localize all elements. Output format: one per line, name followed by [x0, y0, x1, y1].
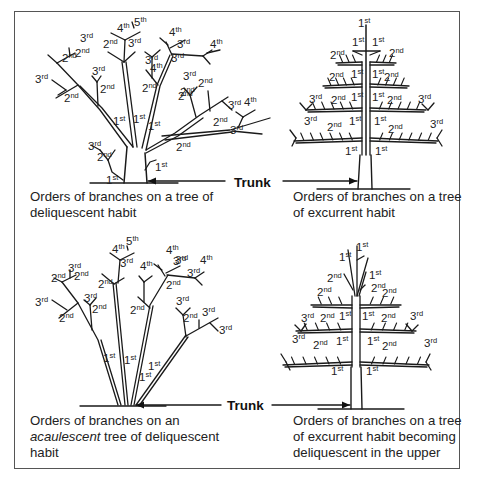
- order-label: 3rd: [292, 332, 305, 345]
- branch-line: [412, 325, 418, 331]
- twig-line: [377, 55, 380, 62]
- order-label: 1st: [133, 112, 146, 125]
- order-label: 3rd: [171, 51, 184, 64]
- branch-line: [108, 52, 124, 62]
- branch-line: [52, 80, 66, 90]
- caption-acaulescent: Orders of branches on an acaulescent tre…: [30, 413, 219, 461]
- twig-line: [428, 133, 431, 140]
- twig-line: [292, 357, 295, 364]
- caption-text: tree of deliquescent: [100, 429, 219, 444]
- caption-text: habit: [30, 445, 59, 460]
- order-label: 1st: [336, 334, 349, 347]
- branch-line: [166, 266, 180, 273]
- order-label: 2nd: [92, 302, 107, 315]
- caption-line: of excurrent habit: [293, 205, 462, 221]
- branch-line: [190, 95, 196, 117]
- twig-line: [406, 357, 409, 364]
- caption-line: Orders of branches on an: [30, 413, 219, 429]
- twig-line: [391, 297, 394, 304]
- order-label: 2nd: [97, 150, 112, 163]
- order-label: 3rd: [301, 311, 314, 324]
- order-label: 2nd: [59, 311, 74, 324]
- twig-line: [393, 78, 396, 85]
- twig-line: [419, 133, 422, 140]
- branch-line: [286, 362, 290, 370]
- order-label: 3rd: [92, 64, 105, 77]
- order-label: 2nd: [327, 271, 342, 284]
- twig-line: [301, 133, 304, 140]
- branch-line: [357, 258, 368, 296]
- branch-line: [426, 362, 431, 370]
- branch-line: [370, 87, 407, 88]
- order-label: 3rd: [309, 92, 322, 105]
- branch-line: [203, 56, 210, 64]
- branch-line: [48, 55, 57, 63]
- caption-line: Orders of branches on a tree: [293, 189, 462, 205]
- order-label: 1st: [369, 268, 382, 281]
- order-label: 3rd: [128, 36, 141, 49]
- branch-line: [298, 332, 352, 333]
- order-label: 2nd: [64, 91, 79, 104]
- order-label: 4th: [169, 25, 182, 38]
- order-label: 3rd: [80, 31, 93, 44]
- order-label: 2nd: [382, 339, 397, 352]
- order-label: 3rd: [228, 98, 241, 111]
- order-label: 1st: [375, 144, 388, 157]
- twig-line: [303, 357, 306, 364]
- order-label: 5th: [126, 234, 139, 247]
- order-label: 1st: [372, 90, 385, 103]
- order-label: 5th: [134, 15, 147, 28]
- order-label: 2nd: [100, 82, 115, 95]
- branch-line: [160, 38, 168, 45]
- order-label: 2nd: [62, 51, 77, 64]
- order-label: 3rd: [418, 92, 431, 105]
- twig-line: [401, 78, 404, 85]
- caption-line: habit: [30, 445, 219, 461]
- order-label: 4th: [210, 37, 223, 50]
- branch-line: [360, 329, 416, 331]
- order-label: 1st: [331, 364, 344, 377]
- branch-line: [158, 265, 165, 276]
- branch-line: [357, 256, 364, 260]
- branch-line: [124, 40, 125, 62]
- order-label: 1st: [358, 16, 371, 29]
- branch-line: [290, 130, 296, 138]
- order-label: 2nd: [313, 338, 328, 351]
- trunk-line: [124, 147, 127, 183]
- order-label: 2nd: [98, 277, 113, 290]
- branch-line: [124, 52, 135, 62]
- order-label: 4th: [117, 21, 130, 34]
- order-label: 3rd: [35, 72, 48, 85]
- branch-line: [116, 283, 128, 405]
- branch-line: [296, 141, 362, 143]
- order-label: 1st: [366, 364, 379, 377]
- branch-line: [296, 329, 352, 331]
- order-label: 2nd: [388, 122, 403, 135]
- order-label: 3rd: [35, 295, 48, 308]
- branch-line: [313, 307, 352, 308]
- order-label: 1st: [352, 35, 365, 48]
- order-label: 4th: [150, 61, 163, 74]
- order-label: 1st: [124, 353, 137, 366]
- tree-acaulescent: 4th5th4th3rd4th2nd3rd3rd4th3rd2nd3rd2nd3…: [35, 234, 232, 406]
- order-label: 3rd: [187, 266, 200, 279]
- order-label: 4th: [244, 95, 257, 108]
- order-label: 3rd: [177, 37, 190, 50]
- branch-line: [437, 130, 442, 138]
- twig-line: [340, 102, 343, 109]
- branch-line: [295, 325, 301, 331]
- twig-line: [346, 55, 349, 62]
- branch-line: [437, 138, 442, 146]
- order-label: 2nd: [382, 286, 397, 299]
- branch-line: [101, 340, 121, 405]
- caption-deliquescent: Orders of branches on a tree of deliques…: [30, 189, 213, 221]
- order-label: 1st: [106, 173, 119, 186]
- branch-line: [370, 111, 424, 112]
- order-label: 1st: [374, 114, 387, 127]
- branch-line: [323, 84, 362, 86]
- order-label: 1st: [345, 144, 358, 157]
- branch-line: [360, 307, 399, 308]
- caption-line: Orders of branches on a tree of: [30, 189, 213, 205]
- caption-line: deliquescent in the upper: [293, 445, 462, 461]
- tree-deliquescent: 4th5th4th3rd4th2nd3rd2nd3rd4th3rd3rd2nd3…: [35, 15, 270, 186]
